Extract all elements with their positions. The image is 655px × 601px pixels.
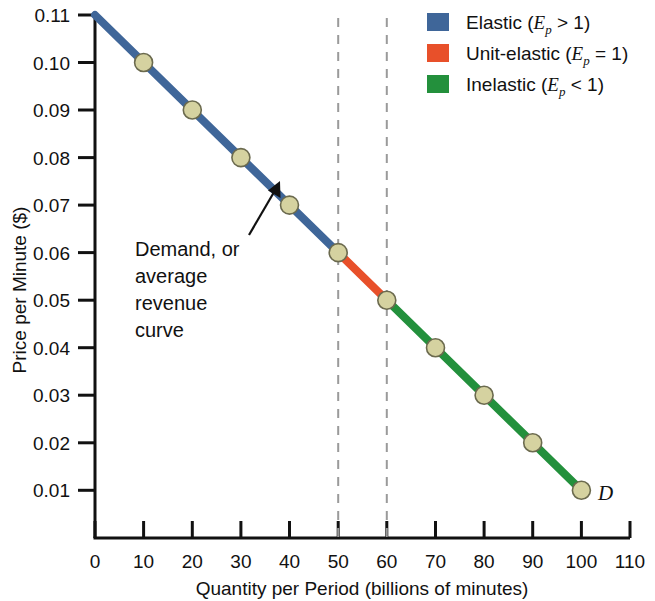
y-tick-label-005: 0.05	[33, 290, 70, 311]
demand-annotation-arrow-icon	[249, 181, 281, 235]
data-point-marker	[475, 386, 493, 404]
y-axis-tick-labels: 0.11 0.10 0.09 0.08 0.07 0.06 0.05 0.04 …	[33, 5, 70, 501]
x-axis-ticks	[95, 521, 630, 538]
legend-item-inelastic[interactable]: Inelastic (Ep < 1)	[427, 74, 604, 99]
legend-label-inelastic-main: Inelastic (	[466, 74, 548, 95]
x-tick-label-50: 50	[328, 551, 349, 572]
x-tick-label-80: 80	[474, 551, 495, 572]
x-tick-label-40: 40	[279, 551, 300, 572]
x-tick-label-100: 100	[566, 551, 598, 572]
legend-label-inelastic-tail: < 1)	[565, 74, 604, 95]
x-tick-label-70: 70	[425, 551, 446, 572]
y-tick-label-001: 0.01	[33, 480, 70, 501]
legend-label-elastic-tail: > 1)	[552, 12, 591, 33]
legend-label-elastic-main: Elastic (	[466, 12, 534, 33]
data-point-marker	[329, 244, 347, 262]
x-tick-label-90: 90	[522, 551, 543, 572]
legend-item-elastic[interactable]: Elastic (Ep > 1)	[427, 12, 590, 37]
y-tick-label-003: 0.03	[33, 385, 70, 406]
legend-label-unit-elastic-symbol: E	[571, 43, 584, 64]
legend-swatch-elastic	[427, 13, 449, 31]
legend-label-inelastic: Inelastic (Ep < 1)	[466, 74, 604, 99]
annotation-arrow-shaft	[249, 187, 277, 235]
x-tick-label-110: 110	[615, 551, 645, 572]
annotation-line-4: curve	[135, 319, 184, 341]
demand-elasticity-chart: 0.11 0.10 0.09 0.08 0.07 0.06 0.05 0.04 …	[0, 0, 655, 601]
curve-segment-unit-elastic	[338, 253, 387, 301]
y-tick-label-006: 0.06	[33, 243, 70, 264]
y-tick-label-009: 0.09	[33, 100, 70, 121]
data-point-marker	[378, 291, 396, 309]
x-axis-title: Quantity per Period (billions of minutes…	[196, 578, 529, 599]
y-tick-label-010: 0.10	[33, 53, 70, 74]
legend-label-elastic-symbol: E	[533, 12, 546, 33]
annotation-line-2: average	[135, 265, 207, 287]
x-tick-label-30: 30	[230, 551, 251, 572]
x-axis-tick-labels: 0 10 20 30 40 50 60 70 80 90 100 110	[90, 551, 645, 572]
legend-swatch-unit-elastic	[427, 44, 449, 62]
data-point-marker	[572, 481, 590, 499]
data-point-marker	[183, 101, 201, 119]
curve-segment-elastic	[95, 15, 338, 253]
data-point-marker	[524, 434, 542, 452]
y-tick-label-007: 0.07	[33, 195, 70, 216]
y-tick-label-004: 0.04	[33, 338, 70, 359]
legend-label-unit-elastic: Unit-elastic (Ep = 1)	[466, 43, 628, 68]
legend-label-elastic: Elastic (Ep > 1)	[466, 12, 590, 37]
x-tick-label-10: 10	[133, 551, 154, 572]
legend-item-unit-elastic[interactable]: Unit-elastic (Ep = 1)	[427, 43, 628, 68]
y-tick-label-002: 0.02	[33, 433, 70, 454]
chart-legend: Elastic (Ep > 1) Unit-elastic (Ep = 1) I…	[427, 12, 628, 99]
x-tick-label-20: 20	[182, 551, 203, 572]
chart-canvas: 0.11 0.10 0.09 0.08 0.07 0.06 0.05 0.04 …	[0, 0, 655, 601]
curve-letter-label: D	[597, 481, 613, 505]
data-point-marker	[135, 54, 153, 72]
data-point-marker	[427, 339, 445, 357]
y-tick-label-011: 0.11	[34, 5, 70, 26]
demand-annotation-text: Demand, or average revenue curve	[135, 238, 240, 341]
annotation-line-1: Demand, or	[135, 238, 240, 260]
y-tick-label-008: 0.08	[33, 148, 70, 169]
legend-label-unit-elastic-main: Unit-elastic (	[466, 43, 572, 64]
legend-label-inelastic-symbol: E	[546, 74, 559, 95]
y-axis-ticks	[78, 15, 95, 490]
y-axis-title: Price per Minute ($)	[9, 207, 30, 374]
x-tick-label-60: 60	[376, 551, 397, 572]
x-tick-label-0: 0	[90, 551, 101, 572]
data-point-marker	[281, 196, 299, 214]
legend-label-unit-elastic-tail: = 1)	[590, 43, 629, 64]
legend-swatch-inelastic	[427, 75, 449, 93]
annotation-line-3: revenue	[135, 292, 207, 314]
data-point-marker	[232, 149, 250, 167]
